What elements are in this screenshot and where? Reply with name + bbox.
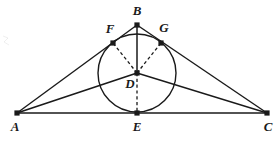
point-marker-D bbox=[134, 70, 139, 75]
point-marker-C bbox=[264, 110, 269, 115]
point-marker-G bbox=[158, 40, 163, 45]
side-BC bbox=[137, 25, 267, 113]
label-C: C bbox=[264, 119, 273, 134]
radius-DG bbox=[137, 43, 161, 73]
point-marker-B bbox=[134, 22, 139, 27]
label-A: A bbox=[10, 119, 20, 134]
label-F: F bbox=[105, 21, 115, 36]
figure-canvas: B F G D A E C bbox=[0, 0, 278, 145]
label-D: D bbox=[124, 76, 135, 91]
geometry-figure: B F G D A E C bbox=[0, 0, 278, 145]
point-marker-A bbox=[14, 110, 19, 115]
radius-DF bbox=[113, 43, 137, 73]
point-marker-E bbox=[134, 110, 139, 115]
label-E: E bbox=[132, 119, 142, 134]
point-marker-F bbox=[110, 40, 115, 45]
label-B: B bbox=[132, 3, 142, 18]
label-G: G bbox=[159, 20, 169, 35]
scan-artifact bbox=[3, 36, 9, 45]
side-AB bbox=[17, 25, 137, 113]
